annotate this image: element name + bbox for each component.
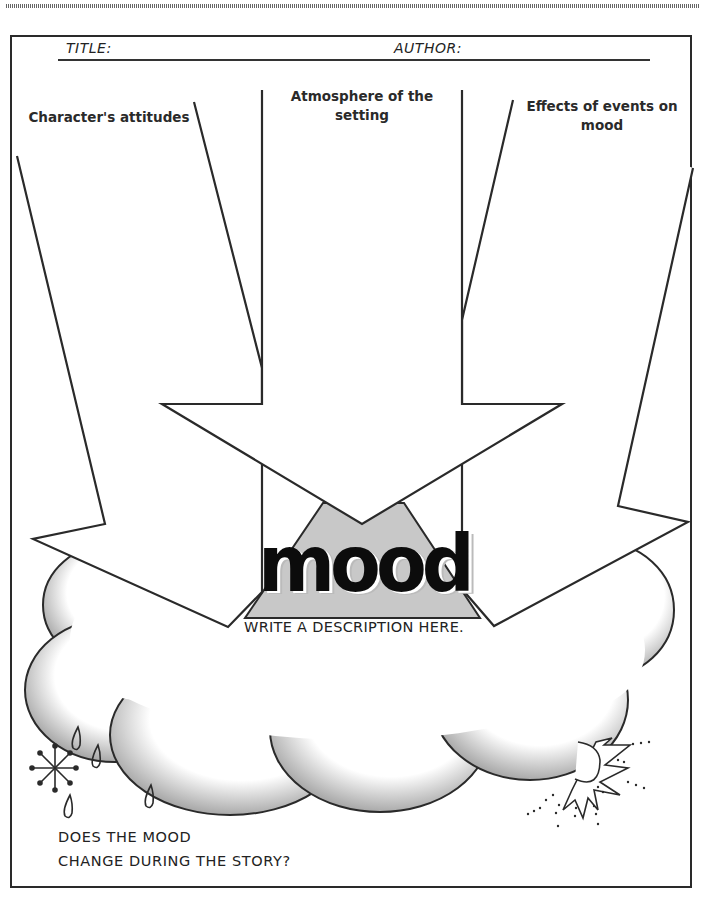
- prompt-atmosphere: Atmosphere of the setting: [272, 87, 452, 125]
- snowflake-icon: [30, 744, 78, 792]
- mood-diagram: [0, 0, 705, 910]
- left-arrow-shape: [17, 102, 262, 627]
- prompt-character-attitudes: Character's attitudes: [24, 108, 194, 127]
- prompt-effects-of-events: Effects of events on mood: [517, 97, 687, 135]
- right-arrow-shape: [462, 100, 693, 626]
- prompt-atmosphere-line1: Atmosphere of the: [272, 87, 452, 106]
- mood-heading: mood: [258, 522, 468, 606]
- prompt-effects-line1: Effects of events on: [517, 97, 687, 116]
- question-line2: CHANGE DURING THE STORY?: [58, 853, 291, 869]
- write-description-instruction: WRITE A DESCRIPTION HERE.: [244, 619, 464, 635]
- question-line1: DOES THE MOOD: [58, 829, 191, 845]
- prompt-effects-line2: mood: [517, 116, 687, 135]
- prompt-atmosphere-line2: setting: [272, 106, 452, 125]
